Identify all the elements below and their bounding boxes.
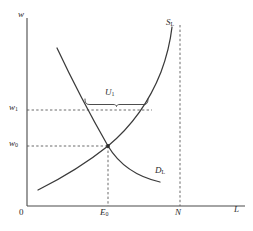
x-tick-label-n: N	[175, 208, 181, 218]
supply-curve-label-sub: L	[171, 21, 175, 27]
y-tick-label-w0: w0	[9, 139, 18, 149]
unemployment-label-sub: 1	[112, 91, 115, 97]
equilibrium-point-marker	[106, 144, 110, 148]
unemployment-label: U1	[105, 88, 114, 98]
demand-curve	[57, 48, 160, 182]
y-axis-label: w	[18, 10, 24, 19]
x-axis-label: L	[234, 205, 239, 214]
origin-label: 0	[19, 208, 24, 217]
unemployment-brace	[85, 99, 148, 107]
supply-curve-label: SL	[166, 18, 174, 28]
x-tick-n-main: N	[175, 207, 181, 217]
x-tick-e0-sub: 0	[106, 211, 109, 217]
demand-curve-label: DL	[155, 166, 165, 176]
y-tick-w0-sub: 0	[15, 142, 18, 148]
labour-market-diagram: w L 0 w1 w0 E0 N SL DL U1	[0, 0, 253, 231]
y-tick-label-w1: w1	[9, 103, 18, 113]
demand-curve-label-sub: L	[162, 169, 166, 175]
y-tick-w1-sub: 1	[15, 106, 18, 112]
x-tick-label-e0: E0	[100, 208, 108, 218]
plot-canvas	[0, 0, 253, 231]
